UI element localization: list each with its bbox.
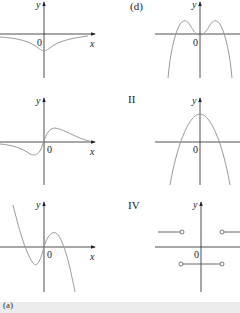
open-circle (220, 230, 224, 234)
panel-label: II (128, 93, 136, 105)
x-axis-label: x (89, 38, 95, 49)
panel-3: y x 0 (0, 95, 95, 185)
x-axis-label: x (89, 251, 95, 262)
y-axis-label: y (192, 199, 198, 210)
origin-label: 0 (193, 37, 198, 48)
y-axis-label: y (191, 0, 197, 10)
panel-label: (d) (130, 0, 143, 13)
origin-label: 0 (194, 249, 199, 260)
bottom-strip (0, 302, 240, 313)
function-graphs-figure: y x 0 (d) y 0 y x 0 II y 0 y x 0 (0, 0, 240, 313)
origin-label: 0 (37, 37, 42, 48)
curve (0, 128, 90, 155)
origin-label: 0 (47, 144, 52, 155)
panel-6: IV y 0 (128, 199, 240, 292)
open-circle (179, 262, 183, 266)
panel-2: (d) y 0 (130, 0, 240, 78)
y-axis-label: y (35, 199, 41, 210)
footer-label: (a) (3, 300, 13, 310)
panel-5: y x 0 (0, 199, 95, 292)
open-circle (180, 230, 184, 234)
y-axis-label: y (35, 0, 41, 10)
open-circle (220, 262, 224, 266)
x-axis-label: x (89, 146, 95, 157)
panel-4: II y 0 (128, 93, 240, 185)
panel-label: IV (128, 199, 140, 211)
y-axis-label: y (35, 95, 41, 106)
y-axis-label: y (191, 95, 197, 106)
origin-label: 0 (193, 144, 198, 155)
panel-1: y x 0 (0, 0, 95, 78)
origin-label: 0 (47, 249, 52, 260)
